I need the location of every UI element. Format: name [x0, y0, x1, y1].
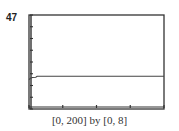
chart — [0, 0, 179, 131]
series-line — [29, 76, 164, 79]
plot-frame — [29, 15, 164, 109]
window-caption: [0, 200] by [0, 8] — [0, 114, 179, 126]
